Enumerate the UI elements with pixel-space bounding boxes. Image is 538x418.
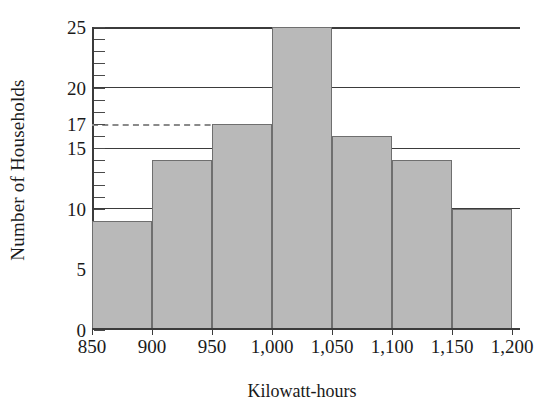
y-axis-label-5: 5	[36, 260, 86, 279]
y-axis-title-text: Number of Households	[7, 79, 29, 260]
x-tick-1000	[272, 330, 273, 335]
x-axis-tick-labels: 8509009501,0001,0501,1001,1501,200	[92, 337, 532, 367]
y-tick-13	[94, 172, 105, 173]
y-tick-14	[94, 160, 105, 161]
y-axis-title: Number of Households	[0, 0, 36, 340]
x-axis-label-1,100: 1,100	[371, 337, 414, 356]
x-axis-line	[92, 328, 520, 330]
y-axis-label-17: 17	[36, 115, 86, 134]
y-tick-18	[94, 112, 105, 113]
x-tick-1100	[392, 330, 393, 335]
bar-850-900	[92, 221, 152, 330]
x-tick-850	[92, 330, 93, 335]
y-tick-11	[94, 197, 105, 198]
y-tick-21	[94, 75, 105, 76]
y-tick-20	[94, 88, 105, 89]
y-axis-label-15: 15	[36, 139, 86, 158]
y-tick-22	[94, 63, 105, 64]
x-axis-label-1,050: 1,050	[311, 337, 354, 356]
bar-1,100-1,150	[392, 160, 452, 330]
bar-900-950	[152, 160, 212, 330]
y-axis-label-10: 10	[36, 200, 86, 219]
x-tick-900	[152, 330, 153, 335]
x-tick-1200	[512, 330, 513, 335]
y-tick-0	[94, 330, 105, 331]
histogram-chart: Number of Households 051015172025 850900…	[0, 0, 538, 418]
y-tick-15	[94, 148, 105, 149]
y-axis-label-25: 25	[36, 18, 86, 37]
x-tick-1050	[332, 330, 333, 335]
y-tick-24	[94, 39, 105, 40]
y-tick-16	[94, 136, 105, 137]
y-tick-19	[94, 100, 105, 101]
x-axis-title: Kilowatt-hours	[92, 381, 512, 402]
y-tick-10	[94, 209, 105, 210]
x-axis-label-1,000: 1,000	[251, 337, 294, 356]
y-tick-17	[94, 124, 105, 125]
x-axis-label-850: 850	[78, 337, 107, 356]
x-axis-label-950: 950	[198, 337, 227, 356]
x-axis-label-1,150: 1,150	[431, 337, 474, 356]
y-axis-label-20: 20	[36, 79, 86, 98]
bar-950-1,000	[212, 124, 272, 330]
y-tick-25	[94, 27, 105, 28]
y-axis-tick-labels: 051015172025	[36, 27, 86, 330]
x-tick-1150	[452, 330, 453, 335]
y-tick-23	[94, 51, 105, 52]
x-axis-label-900: 900	[138, 337, 167, 356]
x-axis-label-1,200: 1,200	[491, 337, 534, 356]
x-tick-950	[212, 330, 213, 335]
bar-1,150-1,200	[452, 209, 512, 330]
bar-1,000-1,050	[272, 27, 332, 330]
bar-1,050-1,100	[332, 136, 392, 330]
y-tick-12	[94, 185, 105, 186]
plot-area	[92, 27, 512, 330]
